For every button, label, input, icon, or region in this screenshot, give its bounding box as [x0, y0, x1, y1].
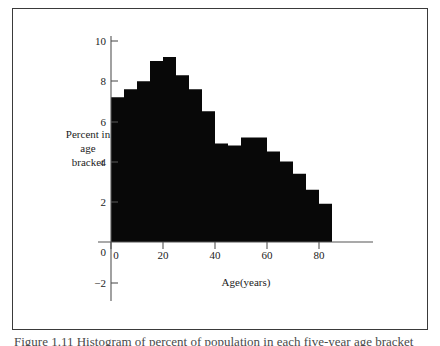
- y-tick-label-minus-2: −2: [94, 277, 106, 289]
- x-axis-title: Age(years): [222, 276, 271, 289]
- figure-root: Percent in age bracket Age(years): [0, 0, 440, 346]
- y-tick-label-6: 6: [101, 116, 107, 128]
- y-tick-label-4: 4: [101, 156, 107, 168]
- x-axis-ticks: [111, 242, 319, 249]
- y-axis-ticks: [111, 41, 118, 283]
- histogram-bars: [111, 57, 332, 242]
- y-axis-title-line-2: age: [80, 142, 95, 154]
- x-tick-label-60: 60: [262, 249, 274, 261]
- origin-tick-label: 0: [101, 246, 107, 258]
- x-tick-label-0: 0: [113, 249, 119, 261]
- x-tick-label-40: 40: [210, 249, 222, 261]
- x-tick-label-80: 80: [314, 249, 326, 261]
- y-tick-label-8: 8: [101, 75, 107, 87]
- y-axis-title-line-1: Percent in: [66, 128, 111, 140]
- y-tick-label-2: 2: [101, 196, 107, 208]
- histogram-chart: Percent in age bracket Age(years): [13, 9, 426, 328]
- x-tick-label-20: 20: [158, 249, 170, 261]
- y-axis-title-line-3: bracket: [72, 156, 104, 168]
- y-tick-label-10: 10: [95, 35, 107, 47]
- figure-frame-border: Percent in age bracket Age(years): [12, 8, 428, 330]
- figure-caption: Figure 1.11 Histogram of percent of popu…: [14, 334, 426, 346]
- histogram-area-path: [111, 57, 332, 242]
- x-axis-tick-labels: 0 20 40 60 80: [113, 249, 325, 261]
